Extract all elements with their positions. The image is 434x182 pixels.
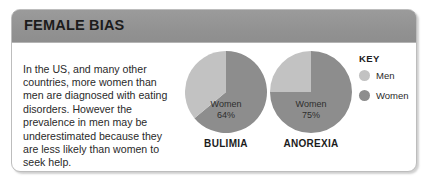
legend-item-women: Women	[359, 90, 417, 101]
legend-item-men: Men	[359, 70, 417, 81]
card-header-bar: FEMALE BIAS	[12, 10, 416, 43]
legend-label-men: Men	[376, 70, 394, 81]
chart-caption-bulimia: BULIMIA	[185, 138, 267, 149]
description-text: In the US, and many other countries, mor…	[23, 63, 179, 170]
pie-svg-anorexia	[270, 51, 352, 133]
infographic-panel: FEMALE BIAS In the US, and many other co…	[0, 0, 434, 182]
chart-bulimia: Women 64% BULIMIA	[185, 51, 267, 149]
pie-chart-bulimia: Women 64%	[185, 51, 267, 133]
legend: KEY Men Women	[359, 53, 417, 110]
pie-svg-bulimia	[185, 51, 267, 133]
legend-swatch-men-icon	[359, 70, 370, 81]
pie-chart-anorexia: Women 75%	[270, 51, 352, 133]
legend-title: KEY	[359, 53, 417, 64]
female-bias-card: FEMALE BIAS In the US, and many other co…	[11, 9, 417, 172]
page-title: FEMALE BIAS	[24, 17, 124, 33]
pie-slice-men	[270, 51, 311, 92]
legend-label-women: Women	[376, 90, 409, 101]
chart-anorexia: Women 75% ANOREXIA	[270, 51, 352, 149]
card-body: In the US, and many other countries, mor…	[12, 43, 416, 172]
chart-caption-anorexia: ANOREXIA	[270, 138, 352, 149]
legend-swatch-women-icon	[359, 90, 370, 101]
